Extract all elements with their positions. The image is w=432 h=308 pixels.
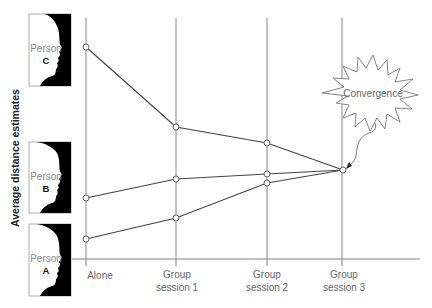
y-axis-label: Average distance estimates [9, 89, 21, 227]
x-label-session-2-line1: Group [253, 269, 281, 280]
person-b-word: Person [30, 171, 62, 182]
person-c-word: Person [30, 43, 62, 54]
person-a-face-icon: Person A [29, 224, 71, 296]
series-person-b [86, 170, 343, 198]
person-c-face-icon: Person C [29, 14, 71, 86]
x-label-session-1-line1: Group [163, 269, 191, 280]
category-gridlines [86, 18, 342, 266]
person-b-letter: B [43, 183, 50, 194]
arrow-head-icon [346, 162, 352, 169]
person-a-letter: A [43, 265, 50, 276]
series-person-c [86, 47, 343, 170]
x-label-session-3-line1: Group [330, 269, 358, 280]
series-person-a [86, 170, 343, 239]
person-a-word: Person [30, 253, 62, 264]
person-c-letter: C [43, 55, 50, 66]
x-label-session-2-line2: session 2 [246, 282, 289, 293]
convergence-callout: Convergence [322, 55, 418, 169]
series-lines [86, 47, 343, 239]
x-label-alone: Alone [87, 270, 113, 281]
x-label-session-3-line2: session 3 [323, 282, 366, 293]
convergence-chart: Average distance estimates Person C Pers… [0, 0, 432, 308]
data-points [83, 44, 346, 242]
convergence-label: Convergence [343, 88, 403, 99]
x-axis-labels: Alone Group session 1 Group session 2 Gr… [87, 269, 365, 293]
person-b-face-icon: Person B [29, 142, 71, 213]
x-label-session-1-line2: session 1 [156, 282, 199, 293]
callout-arrow-line [348, 123, 375, 167]
